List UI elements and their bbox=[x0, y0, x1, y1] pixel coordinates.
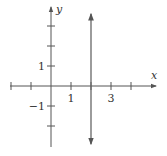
y-tick-label: 1 bbox=[38, 60, 45, 73]
axis-labels: x y bbox=[55, 3, 158, 82]
x-axis-label: x bbox=[151, 69, 158, 82]
y-tick-label: −1 bbox=[29, 100, 45, 113]
x-tick-label: 1 bbox=[68, 92, 75, 105]
y-axis-label: y bbox=[55, 3, 63, 16]
x-tick-label: 3 bbox=[108, 92, 115, 105]
axes bbox=[10, 7, 156, 147]
coordinate-plane: x y 131−1 bbox=[0, 0, 167, 156]
